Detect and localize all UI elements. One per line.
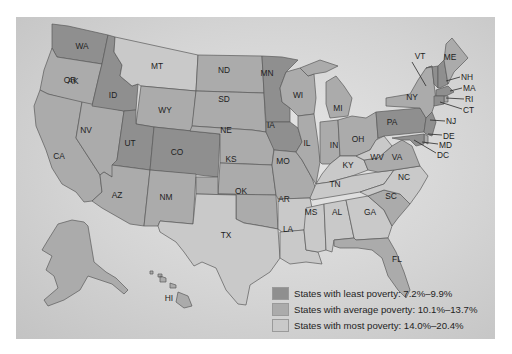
label-ar: AR <box>278 194 290 204</box>
label-fl: FL <box>392 254 402 264</box>
label-ct: CT <box>463 105 474 115</box>
swatch-least <box>272 287 289 300</box>
label-wa: WA <box>75 41 89 51</box>
label-dc: DC <box>437 150 449 160</box>
label-il: IL <box>304 138 311 148</box>
legend-label-least: States with least poverty: 7.2%–9.9% <box>294 288 452 299</box>
label-me: ME <box>444 52 457 62</box>
label-sd: SD <box>218 94 230 104</box>
state-ct <box>434 96 444 106</box>
label-tn: TN <box>329 179 340 189</box>
label-ca: CA <box>53 151 65 161</box>
legend: States with least poverty: 7.2%–9.9% Sta… <box>272 285 477 333</box>
state-hi-islands <box>150 271 176 288</box>
label-ks: KS <box>225 154 237 164</box>
state-co <box>150 127 220 177</box>
label-ky: KY <box>342 160 354 170</box>
label-va: VA <box>392 152 403 162</box>
label-ut: UT <box>124 138 135 148</box>
label-mi: MI <box>333 103 342 113</box>
state-ak <box>42 220 128 306</box>
swatch-most <box>272 319 289 332</box>
label-md: MD <box>439 140 452 150</box>
label-ok: OK <box>235 186 248 196</box>
label-pa: PA <box>387 117 398 127</box>
label-ma: MA <box>463 83 476 93</box>
legend-item-average: States with average poverty: 10.1%–13.7% <box>272 301 477 317</box>
state-hi <box>176 292 192 308</box>
label-nc: NC <box>398 172 410 182</box>
label-ak: AK <box>67 76 79 86</box>
leader-ct <box>440 102 462 109</box>
label-oh: OH <box>352 134 365 144</box>
label-wv: WV <box>370 152 384 162</box>
label-vt: VT <box>415 51 426 61</box>
leader-md <box>422 142 438 144</box>
state-pa <box>376 108 426 138</box>
state-mi-up <box>300 60 338 76</box>
label-nv: NV <box>80 125 92 135</box>
label-nd: ND <box>218 65 230 75</box>
leader-ri <box>446 98 464 99</box>
legend-item-most: States with most poverty: 14.0%–20.4% <box>272 317 477 333</box>
swatch-average <box>272 303 289 316</box>
label-sc: SC <box>385 191 397 201</box>
label-hi: HI <box>165 293 173 303</box>
label-ny: NY <box>406 92 418 102</box>
state-ri <box>444 96 448 102</box>
label-tx: TX <box>221 230 232 240</box>
legend-label-average: States with average poverty: 10.1%–13.7% <box>294 304 477 315</box>
label-la: LA <box>283 224 294 234</box>
label-ms: MS <box>305 207 318 217</box>
label-al: AL <box>332 207 343 217</box>
label-ga: GA <box>364 207 377 217</box>
label-ri: RI <box>465 94 473 104</box>
label-mn: MN <box>260 68 273 78</box>
legend-label-most: States with most poverty: 14.0%–20.4% <box>294 320 464 331</box>
label-az: AZ <box>112 190 123 200</box>
label-in: IN <box>330 140 338 150</box>
label-id: ID <box>109 90 117 100</box>
legend-item-least: States with least poverty: 7.2%–9.9% <box>272 285 477 301</box>
label-ia: IA <box>267 120 275 130</box>
label-mo: MO <box>276 156 290 166</box>
label-ne: NE <box>220 125 232 135</box>
label-co: CO <box>171 147 184 157</box>
label-nm: NM <box>159 192 172 202</box>
label-wy: WY <box>158 105 172 115</box>
label-wi: WI <box>293 90 303 100</box>
label-nj: NJ <box>446 116 456 126</box>
label-nh: NH <box>461 72 473 82</box>
label-mt: MT <box>151 61 163 71</box>
